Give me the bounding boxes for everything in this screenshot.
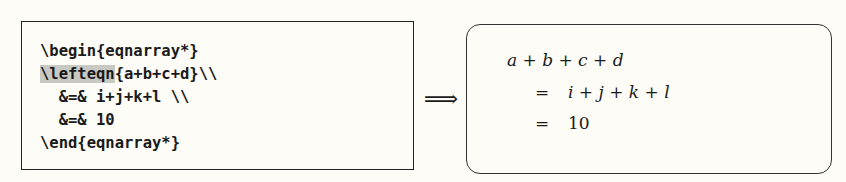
indent <box>40 111 59 129</box>
code-line-4: &=& 10 <box>40 109 413 132</box>
equation-rhs-2: 10 <box>568 113 590 133</box>
relation-equals-2: = <box>535 113 549 133</box>
highlighted-command: \lefteqn <box>40 65 115 83</box>
equation-rhs-1: i + j + k + l <box>568 82 670 102</box>
code-line-5: \end{eqnarray*} <box>40 132 413 155</box>
rendered-output-box: a + b + c + d = i + j + k + l = 10 <box>466 24 832 174</box>
indent <box>40 88 59 106</box>
code-text: &=& 10 <box>59 111 115 129</box>
code-text: {a+b+c+d}\\ <box>115 65 218 83</box>
code-line-1: \begin{eqnarray*} <box>40 40 413 63</box>
latex-source-box: \begin{eqnarray*} \lefteqn{a+b+c+d}\\ &=… <box>21 21 414 170</box>
code-text: &=& i+j+k+l \\ <box>59 88 190 106</box>
code-line-2: \lefteqn{a+b+c+d}\\ <box>40 63 413 86</box>
code-text: \end{eqnarray*} <box>40 134 180 152</box>
code-line-3: &=& i+j+k+l \\ <box>40 86 413 109</box>
code-text: \begin{eqnarray*} <box>40 42 199 60</box>
implies-arrow-icon: ⟹ <box>420 84 462 114</box>
relation-equals-1: = <box>535 82 549 102</box>
equation-lhs: a + b + c + d <box>507 50 624 70</box>
